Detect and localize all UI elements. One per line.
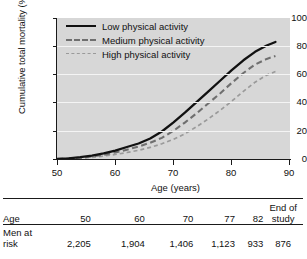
series-line-high — [57, 72, 275, 159]
x-tick-mark-90 — [289, 160, 290, 165]
legend-item-low: Low physical activity — [66, 19, 204, 33]
chart-legend: Low physical activity Medium physical ac… — [66, 19, 204, 61]
header-cell-60: 60 — [91, 203, 145, 225]
x-tick-label-90: 90 — [274, 167, 304, 178]
x-tick-label-50: 50 — [42, 167, 72, 178]
cell-at-risk-82: 933 — [235, 228, 263, 249]
legend-label-low: Low physical activity — [102, 21, 188, 32]
row-label-line1: Men at — [3, 228, 46, 239]
chart-area: Cumulative total mortality (%) 100 80 60… — [0, 0, 307, 196]
header-cell-age: Age — [3, 203, 46, 225]
cell-at-risk-77: 1,123 — [193, 228, 235, 249]
header-end-of-study-line2: study — [263, 214, 303, 225]
x-tick-mark-50 — [57, 160, 58, 165]
cell-at-risk-60: 1,904 — [91, 228, 145, 249]
x-tick-mark-60 — [115, 160, 116, 165]
gridline-20 — [57, 131, 290, 132]
y-axis-line — [56, 18, 57, 160]
legend-swatch-dashed-line-icon — [66, 36, 96, 44]
cell-at-risk-50: 2,205 — [46, 228, 91, 249]
legend-label-high: High physical activity — [102, 49, 190, 60]
y-axis-title: Cumulative total mortality (%) — [16, 0, 27, 129]
row-label-line2: risk — [3, 239, 46, 250]
legend-swatch-solid-line-icon — [66, 22, 96, 30]
figure-root: Cumulative total mortality (%) 100 80 60… — [0, 0, 307, 259]
header-cell-70: 70 — [145, 203, 194, 225]
header-cell-82: 82 — [235, 203, 263, 225]
x-axis-title: Age (years) — [0, 182, 307, 193]
legend-label-medium: Medium physical activity — [102, 35, 204, 46]
row-label-men-at-risk: Men at risk — [3, 228, 46, 249]
legend-item-high: High physical activity — [66, 47, 204, 61]
header-cell-77: 77 — [193, 203, 235, 225]
series-line-medium — [57, 56, 275, 159]
legend-swatch-dotted-line-icon — [66, 50, 96, 58]
legend-item-medium: Medium physical activity — [66, 33, 204, 47]
cell-at-risk-end-of-study: 876 — [263, 228, 303, 249]
header-cell-end-of-study: End of study — [263, 203, 303, 225]
cell-at-risk-70: 1,406 — [145, 228, 194, 249]
x-tick-mark-80 — [231, 160, 232, 165]
x-tick-label-80: 80 — [216, 167, 246, 178]
header-cell-50: 50 — [46, 203, 91, 225]
x-tick-label-70: 70 — [158, 167, 188, 178]
gridline-60 — [57, 74, 290, 75]
gridline-40 — [57, 102, 290, 103]
x-tick-mark-70 — [173, 160, 174, 165]
header-end-of-study-line1: End of — [263, 203, 303, 214]
table-header-row: Age 50 60 70 77 82 End of study — [3, 203, 303, 225]
x-tick-label-60: 60 — [100, 167, 130, 178]
numbers-at-risk-table: Age 50 60 70 77 82 End of study Men at r… — [0, 198, 307, 259]
table-row: Men at risk 2,205 1,904 1,406 1,123 933 … — [3, 228, 303, 249]
